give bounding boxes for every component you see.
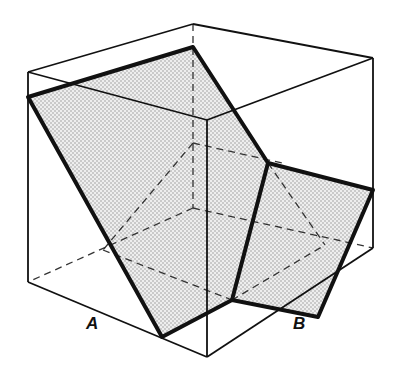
label-a: A	[86, 314, 98, 334]
top-back-right-edge	[193, 24, 373, 58]
label-b: B	[293, 314, 305, 334]
cube-diagram	[0, 0, 395, 377]
